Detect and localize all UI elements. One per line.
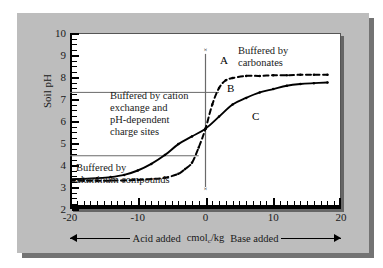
x-tick-label: 10 [268, 212, 279, 223]
series-point-b [326, 74, 329, 77]
series-point-b [177, 173, 180, 176]
x-caption-units: cmolc/kg [184, 232, 228, 245]
curve-label-c: C [252, 111, 259, 122]
series-point-b [231, 77, 234, 80]
annotation-cation-line-2: exchange and [110, 102, 189, 114]
series-point-b [299, 74, 302, 77]
series-point-b [204, 127, 207, 130]
annotation-aluminum-line-2: aluminum compounds [76, 174, 170, 186]
x-caption-base: Base added [227, 233, 281, 244]
annotation-cation-line-3: pH-dependent [110, 114, 189, 126]
x-tick-label: -10 [130, 212, 145, 223]
series-point-b [197, 146, 200, 149]
plot-inner: 2345678910 -20-1001020 Buffered by catio… [70, 33, 341, 209]
y-tick-label: 9 [61, 50, 67, 61]
base-arrow-icon [281, 238, 341, 239]
vertical-line-top-marker: × [204, 47, 208, 54]
series-point-c [245, 97, 248, 100]
series-point-c [299, 83, 302, 86]
series-point-c [164, 154, 167, 157]
x-tick-label: -20 [63, 212, 78, 223]
y-tick-label: 8 [61, 72, 67, 83]
series-point-c [191, 135, 194, 138]
annotation-carbonates-line-1: Buffered by [238, 45, 288, 57]
series-point-b [258, 75, 261, 78]
x-tick-label: 20 [336, 212, 347, 223]
annotation-cation-line-4: charge sites [110, 126, 189, 138]
annotation-carbonates-line-2: carbonates [238, 57, 288, 69]
y-tick-label: 6 [61, 116, 67, 127]
y-tick-label: 7 [61, 94, 67, 105]
plot-panel: 2345678910 -20-1001020 Buffered by catio… [70, 33, 341, 209]
figure-card: Soil pH 2345678910 -20-1001020 Buffered … [17, 13, 369, 253]
vertical-line-bottom-marker: × [204, 186, 208, 193]
x-caption-units-pre: cmol [187, 232, 208, 243]
figure-root: Soil pH 2345678910 -20-1001020 Buffered … [0, 0, 383, 268]
series-point-c [313, 82, 316, 85]
y-axis-title: Soil pH [41, 74, 53, 108]
series-point-c [286, 85, 289, 88]
curve-label-b: B [227, 83, 234, 94]
series-point-c [272, 88, 275, 91]
series-point-b [313, 74, 316, 77]
annotation-carbonates: Buffered by carbonates [238, 45, 288, 69]
annotation-aluminum-line-1: Buffered by [76, 162, 170, 174]
annotation-cation-exchange: Buffered by cation exchange and pH-depen… [110, 90, 189, 138]
y-tick-label: 4 [61, 160, 67, 171]
x-tick-label: 0 [203, 212, 209, 223]
series-point-c [231, 103, 234, 106]
y-tick-label: 3 [61, 182, 67, 193]
series-point-b [286, 74, 289, 77]
series-point-c [258, 91, 261, 94]
series-point-b [245, 75, 248, 78]
series-point-b [272, 74, 275, 77]
series-point-b [184, 168, 187, 171]
series-point-b [211, 103, 214, 106]
y-tick-label: 5 [61, 138, 67, 149]
series-point-c [177, 143, 180, 146]
x-axis-caption: Acid added cmolc/kg Base added [70, 229, 341, 247]
series-point-c [326, 81, 329, 84]
annotation-aluminum-compounds: Buffered by aluminum compounds [76, 162, 170, 186]
series-point-b [218, 87, 221, 90]
x-caption-acid: Acid added [130, 233, 184, 244]
acid-arrow-icon [70, 238, 130, 239]
y-tick-label: 10 [55, 28, 66, 39]
series-point-b [191, 162, 194, 165]
x-caption-units-post: /kg [211, 232, 224, 243]
series-point-c [218, 115, 221, 118]
curve-label-a: A [220, 55, 228, 66]
annotation-cation-line-1: Buffered by cation [110, 90, 189, 102]
